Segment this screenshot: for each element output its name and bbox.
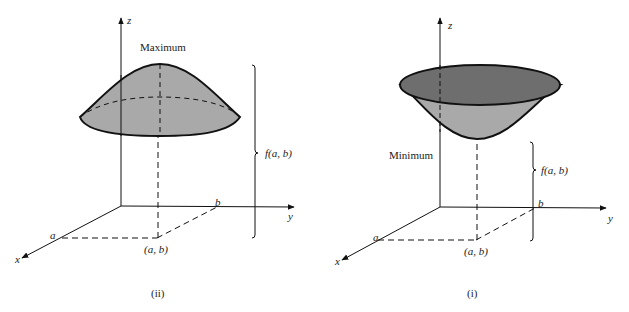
y-axis-label: y bbox=[608, 213, 613, 224]
tick-a-label: a bbox=[50, 230, 56, 241]
height-bracket bbox=[252, 65, 258, 238]
x-axis bbox=[342, 207, 440, 260]
tick-a-label: a bbox=[373, 232, 379, 243]
y-axis bbox=[121, 206, 294, 207]
diagram-canvas bbox=[0, 0, 629, 312]
tick-b-label: b bbox=[215, 197, 221, 208]
minimum-label: Minimum bbox=[389, 150, 433, 161]
minimum-rim bbox=[400, 65, 560, 105]
x-axis-label: x bbox=[15, 254, 20, 265]
height-label: f(a, b) bbox=[265, 148, 292, 159]
maximum-label: Maximum bbox=[140, 42, 186, 53]
y-axis-label: y bbox=[288, 211, 293, 222]
point-label: (a, b) bbox=[144, 244, 168, 255]
caption-i: (i) bbox=[467, 288, 477, 299]
y-axis bbox=[440, 207, 606, 208]
height-label: f(a, b) bbox=[541, 165, 568, 176]
x-axis bbox=[22, 206, 121, 258]
figure-maximum bbox=[22, 18, 294, 258]
point-label: (a, b) bbox=[464, 246, 488, 257]
height-bracket bbox=[530, 142, 536, 241]
figure-minimum bbox=[342, 18, 606, 260]
x-axis-label: x bbox=[335, 256, 340, 267]
caption-ii: (ii) bbox=[151, 288, 164, 299]
tick-b-label: b bbox=[538, 198, 544, 209]
z-axis-label: z bbox=[127, 15, 131, 26]
z-axis-label: z bbox=[448, 20, 452, 31]
